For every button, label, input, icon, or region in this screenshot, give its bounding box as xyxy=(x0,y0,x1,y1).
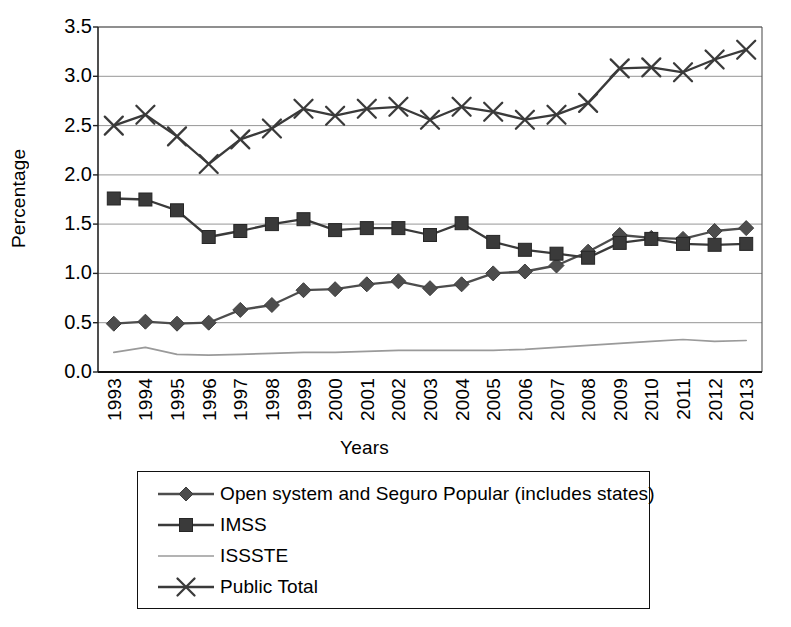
legend-item[interactable]: ISSSTE xyxy=(138,540,649,571)
plot-area xyxy=(0,0,791,400)
data-point-marker xyxy=(455,217,468,230)
legend-marker-x-icon xyxy=(152,575,220,599)
data-point-marker xyxy=(170,316,185,331)
data-point-marker xyxy=(171,204,184,217)
data-point-marker xyxy=(518,243,531,256)
data-point-marker xyxy=(329,224,342,237)
data-point-marker xyxy=(328,282,343,297)
chart-legend: Open system and Seguro Popular (includes… xyxy=(137,471,650,609)
legend-item[interactable]: IMSS xyxy=(138,509,649,540)
data-point-marker xyxy=(550,247,563,260)
data-point-marker xyxy=(139,193,152,206)
data-point-marker xyxy=(740,237,753,250)
data-point-marker xyxy=(392,222,405,235)
data-point-marker xyxy=(360,222,373,235)
data-point-marker xyxy=(106,316,121,331)
data-point-marker xyxy=(265,218,278,231)
chart-figure: Percentage 0.00.51.01.52.02.53.03.5 1993… xyxy=(0,0,791,627)
legend-marker-diamond-icon xyxy=(152,482,220,506)
data-point-marker xyxy=(582,251,595,264)
legend-label: ISSSTE xyxy=(220,545,288,567)
data-point-marker xyxy=(296,283,311,298)
data-point-marker xyxy=(202,231,215,244)
data-point-marker xyxy=(359,277,374,292)
legend-label: IMSS xyxy=(220,514,267,536)
data-point-marker xyxy=(391,274,406,289)
legend-square-icon xyxy=(180,518,193,531)
legend-marker-none-icon xyxy=(152,544,220,568)
series-line xyxy=(114,340,746,356)
data-point-marker xyxy=(423,281,438,296)
series-public-total xyxy=(105,41,755,173)
legend-item[interactable]: Public Total xyxy=(138,571,649,602)
legend-marker-square-icon xyxy=(152,513,220,537)
data-point-marker xyxy=(234,225,247,238)
data-point-marker xyxy=(264,298,279,313)
data-point-marker xyxy=(645,232,658,245)
data-point-marker xyxy=(233,302,248,317)
data-point-marker xyxy=(424,229,437,242)
x-axis-title: Years xyxy=(340,437,389,459)
data-point-marker xyxy=(677,237,690,250)
data-point-marker xyxy=(739,221,754,236)
data-point-marker xyxy=(613,236,626,249)
data-point-marker xyxy=(454,277,469,292)
data-point-marker xyxy=(708,238,721,251)
data-point-marker xyxy=(517,264,532,279)
legend-label: Public Total xyxy=(220,576,318,598)
data-point-marker xyxy=(138,314,153,329)
data-point-marker xyxy=(201,315,216,330)
series-issste xyxy=(114,340,746,356)
data-point-marker xyxy=(707,224,722,239)
legend-label: Open system and Seguro Popular (includes… xyxy=(220,483,655,505)
data-point-marker xyxy=(297,213,310,226)
legend-item[interactable]: Open system and Seguro Popular (includes… xyxy=(138,478,649,509)
series-imss xyxy=(107,192,752,264)
data-point-marker xyxy=(486,266,501,281)
legend-diamond-icon xyxy=(179,487,193,501)
data-point-marker xyxy=(107,192,120,205)
data-point-marker xyxy=(487,235,500,248)
